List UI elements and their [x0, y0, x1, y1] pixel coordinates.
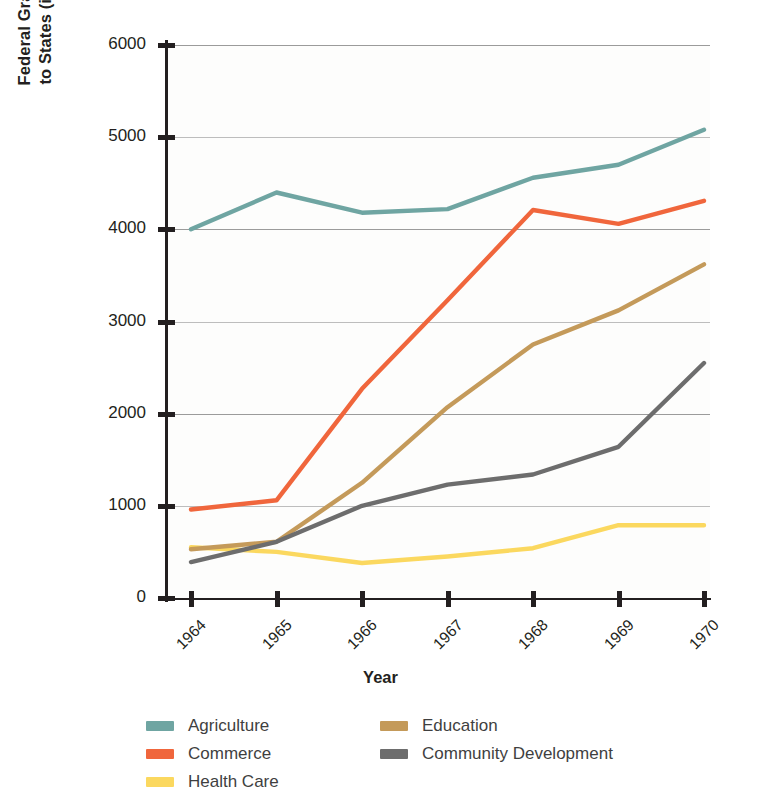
chart-figure: Federal Grants-in-Aid to States (in mill…: [0, 0, 761, 805]
legend-item-agriculture[interactable]: Agriculture: [146, 712, 279, 740]
legend-label: Education: [422, 716, 498, 736]
legend-swatch-icon: [146, 721, 174, 731]
series-line-agriculture: [191, 130, 704, 230]
legend-swatch-icon: [146, 749, 174, 759]
x-axis-title: Year: [0, 668, 761, 687]
legend-label: Commerce: [188, 744, 271, 764]
legend-item-education[interactable]: Education: [380, 712, 613, 740]
series-line-education: [191, 264, 704, 549]
legend-label: Community Development: [422, 744, 613, 764]
legend-swatch-icon: [380, 749, 408, 759]
legend-item-community-development[interactable]: Community Development: [380, 740, 613, 768]
legend-column-1: AgricultureCommerceHealth Care: [146, 712, 279, 796]
legend-label: Agriculture: [188, 716, 269, 736]
series-line-commerce: [191, 201, 704, 510]
legend-item-commerce[interactable]: Commerce: [146, 740, 279, 768]
series-line-community-development: [191, 363, 704, 562]
legend-column-2: EducationCommunity Development: [380, 712, 613, 768]
legend-swatch-icon: [146, 777, 174, 787]
legend-label: Health Care: [188, 772, 279, 792]
legend-swatch-icon: [380, 721, 408, 731]
legend-item-health-care[interactable]: Health Care: [146, 768, 279, 796]
